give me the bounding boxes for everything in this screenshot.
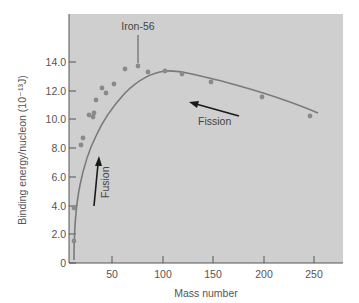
- y-tick-label: 6.0: [51, 171, 66, 183]
- plot-area: [69, 14, 343, 263]
- x-tick-labels: 50 100 150 200 250: [106, 268, 323, 280]
- data-point: [91, 115, 96, 120]
- data-point: [81, 136, 86, 141]
- y-tick-label: 8.0: [51, 142, 66, 154]
- data-point: [79, 143, 84, 148]
- data-point: [260, 95, 265, 100]
- data-point: [180, 72, 185, 77]
- data-point: [92, 111, 97, 116]
- data-point: [104, 91, 109, 96]
- fusion-label: Fusion: [99, 166, 111, 198]
- data-point: [146, 70, 151, 75]
- fission-label: Fission: [198, 115, 231, 127]
- y-tick-label: 12.0: [46, 85, 67, 97]
- data-point: [163, 69, 168, 74]
- data-point: [72, 206, 77, 211]
- data-point: [209, 80, 214, 85]
- x-tick-label: 50: [106, 268, 118, 280]
- data-point: [100, 86, 105, 91]
- x-tick-label: 100: [154, 268, 172, 280]
- y-tick-label: 0: [60, 257, 66, 269]
- x-axis-title: Mass number: [174, 287, 238, 299]
- data-point: [94, 98, 99, 103]
- x-tick-label: 200: [255, 268, 273, 280]
- y-tick-labels: 0 2.0 4.0 6.0 8.0 10.0 12.0 14.0: [46, 56, 67, 269]
- y-tick-label: 14.0: [46, 56, 67, 68]
- x-tick-label: 150: [204, 268, 222, 280]
- y-tick-label: 10.0: [46, 113, 67, 125]
- data-point: [136, 64, 141, 69]
- y-tick-label: 4.0: [51, 200, 66, 212]
- y-tick-label: 2.0: [51, 228, 66, 240]
- data-point: [72, 239, 77, 244]
- binding-energy-chart: 0 2.0 4.0 6.0 8.0 10.0 12.0 14.0 50 100 …: [0, 0, 359, 303]
- iron-56-label: Iron-56: [121, 20, 154, 32]
- x-tick-label: 250: [305, 268, 323, 280]
- data-point: [112, 82, 117, 87]
- data-point: [123, 67, 128, 72]
- data-point: [308, 114, 313, 119]
- y-axis-title: Binding energy/nucleon (10⁻¹³J): [16, 75, 28, 225]
